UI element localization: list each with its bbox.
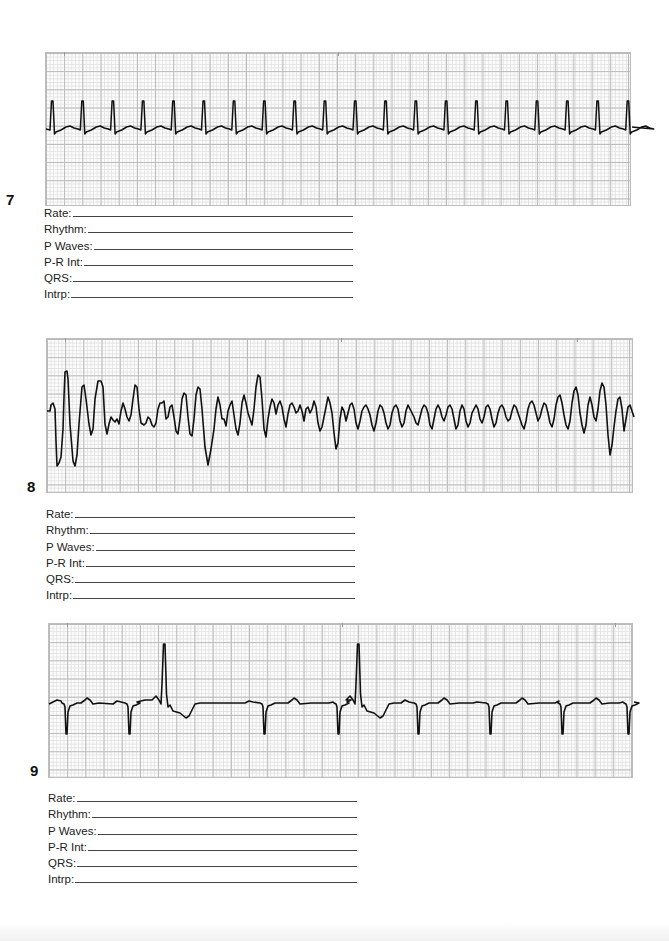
answer-line[interactable] <box>88 231 353 233</box>
ecg-strip <box>46 338 633 493</box>
answer-fields: Rate: Rhythm: P Waves: P-R Int: QRS: Int… <box>48 788 357 885</box>
field-rate: Rate: <box>48 788 357 804</box>
field-label: Rhythm: <box>48 808 92 820</box>
field-label: Rate: <box>48 792 77 804</box>
field-label: P Waves: <box>44 240 94 252</box>
field-p-waves: P Waves: <box>44 235 353 251</box>
field-label: P Waves: <box>48 825 98 837</box>
field-label: Intrp: <box>48 873 75 885</box>
field-label: Rate: <box>46 508 75 520</box>
answer-line[interactable] <box>73 597 355 599</box>
field-qrs: QRS: <box>48 853 357 869</box>
answer-line[interactable] <box>75 881 357 883</box>
field-label: Rhythm: <box>46 524 90 536</box>
field-rhythm: Rhythm: <box>46 520 355 536</box>
ecg-strip <box>48 623 633 778</box>
answer-line[interactable] <box>94 248 353 250</box>
field-pr-int: P-R Int: <box>44 252 353 268</box>
answer-line[interactable] <box>96 549 355 551</box>
field-label: Intrp: <box>46 589 73 601</box>
field-p-waves: P Waves: <box>48 820 357 836</box>
ecg-trace <box>47 339 634 494</box>
field-qrs: QRS: <box>44 268 353 284</box>
field-rate: Rate: <box>46 504 355 520</box>
field-rhythm: Rhythm: <box>44 219 353 235</box>
field-intrp: Intrp: <box>44 284 353 300</box>
answer-line[interactable] <box>73 215 354 217</box>
answer-line[interactable] <box>77 800 358 802</box>
answer-line[interactable] <box>98 833 357 835</box>
field-label: P-R Int: <box>48 841 88 853</box>
answer-line[interactable] <box>92 816 357 818</box>
answer-line[interactable] <box>71 296 353 298</box>
answer-line[interactable] <box>86 565 355 567</box>
answer-fields: Rate: Rhythm: P Waves: P-R Int: QRS: Int… <box>44 203 353 300</box>
field-rate: Rate: <box>44 203 353 219</box>
strip-number: 8 <box>27 479 35 494</box>
strip-number: 9 <box>30 763 38 778</box>
field-label: Rhythm: <box>44 223 88 235</box>
answer-line[interactable] <box>75 516 356 518</box>
answer-line[interactable] <box>73 280 353 282</box>
field-intrp: Intrp: <box>48 869 357 885</box>
answer-fields: Rate: Rhythm: P Waves: P-R Int: QRS: Int… <box>46 504 355 601</box>
field-label: QRS: <box>44 272 73 284</box>
answer-line[interactable] <box>75 581 355 583</box>
answer-line[interactable] <box>77 865 357 867</box>
field-intrp: Intrp: <box>46 585 355 601</box>
ecg-trace <box>49 624 634 779</box>
page-bottom-shadow <box>0 922 669 941</box>
field-label: QRS: <box>48 857 77 869</box>
field-label: P Waves: <box>46 541 96 553</box>
field-label: P-R Int: <box>46 557 86 569</box>
ecg-trace <box>46 53 632 207</box>
field-label: QRS: <box>46 573 75 585</box>
field-pr-int: P-R Int: <box>48 837 357 853</box>
field-label: Intrp: <box>44 288 71 300</box>
field-p-waves: P Waves: <box>46 536 355 552</box>
field-label: Rate: <box>44 207 73 219</box>
ecg-strip <box>45 52 631 206</box>
field-qrs: QRS: <box>46 569 355 585</box>
field-pr-int: P-R Int: <box>46 553 355 569</box>
field-label: P-R Int: <box>44 256 84 268</box>
answer-line[interactable] <box>88 849 357 851</box>
answer-line[interactable] <box>90 532 355 534</box>
strip-number: 7 <box>6 192 14 207</box>
field-rhythm: Rhythm: <box>48 804 357 820</box>
answer-line[interactable] <box>84 264 353 266</box>
